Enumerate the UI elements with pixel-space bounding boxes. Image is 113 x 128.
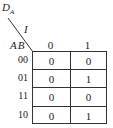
cell-11-1: 0 (70, 88, 107, 106)
kmap-grid: 0 0 0 1 0 0 0 1 (32, 51, 107, 124)
cell-10-1: 1 (70, 107, 107, 125)
output-name: D (2, 1, 10, 13)
cell-10-0: 0 (33, 107, 70, 125)
row-header-00: 00 (8, 51, 28, 69)
output-label: DA (2, 2, 14, 18)
column-variable-label: I (24, 24, 28, 35)
output-subscript: A (10, 8, 14, 16)
row-header-11: 11 (8, 87, 28, 105)
row-header-10: 10 (8, 106, 28, 124)
column-header-1: 1 (69, 40, 106, 51)
cell-11-0: 0 (33, 88, 70, 106)
row-header-01: 01 (8, 69, 28, 87)
cell-01-1: 1 (70, 70, 107, 88)
cell-00-1: 0 (70, 52, 107, 70)
column-header-0: 0 (32, 40, 69, 51)
cell-00-0: 0 (33, 52, 70, 70)
cell-01-0: 0 (33, 70, 70, 88)
row-variables-label: AB (10, 40, 25, 51)
